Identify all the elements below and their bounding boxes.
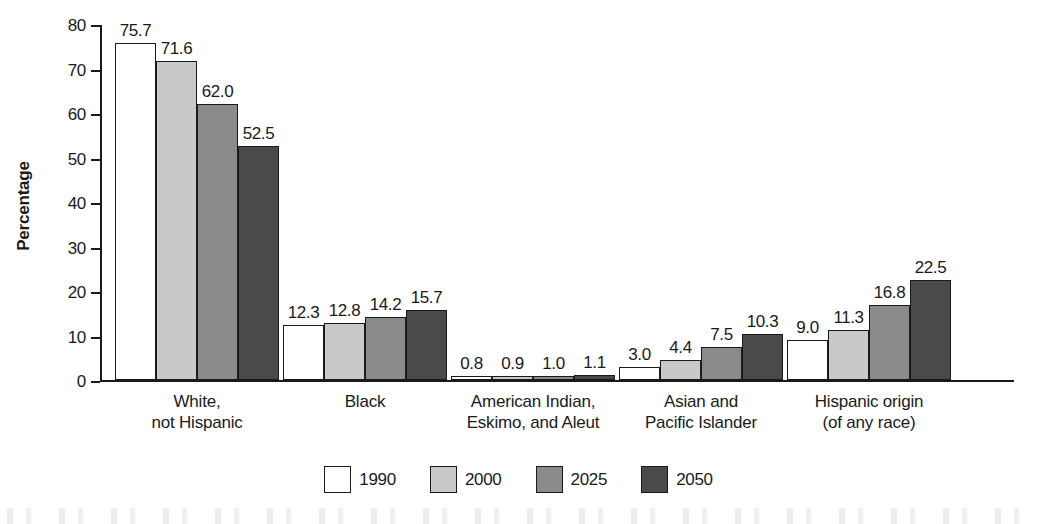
y-tick-mark	[91, 292, 100, 294]
bar-value-label: 62.0	[187, 83, 249, 100]
bar	[115, 43, 156, 380]
y-tick-label: 60	[42, 106, 86, 123]
bar	[156, 61, 197, 380]
bar	[197, 104, 238, 380]
bar	[324, 323, 365, 380]
y-tick-label: 70	[42, 62, 86, 79]
bar	[701, 347, 742, 380]
y-tick-mark	[91, 114, 100, 116]
bar-group: 0.80.91.01.1	[451, 24, 615, 380]
bar	[574, 375, 615, 380]
bar	[451, 376, 492, 380]
bar-group: 12.312.814.215.7	[283, 24, 447, 380]
bar	[283, 325, 324, 380]
bar-group: 3.04.47.510.3	[619, 24, 783, 380]
bar	[828, 330, 869, 380]
y-tick-label: 10	[42, 329, 86, 346]
bar	[660, 360, 701, 380]
bar-value-label: 22.5	[900, 259, 962, 276]
chart-legend: 1990200020252050	[0, 466, 1037, 493]
y-tick-label: 20	[42, 284, 86, 301]
bar	[619, 367, 660, 380]
bar	[238, 146, 279, 380]
y-tick-mark	[91, 203, 100, 205]
legend-label: 2000	[465, 470, 502, 490]
bar	[742, 334, 783, 380]
y-tick-mark	[91, 381, 100, 383]
legend-swatch	[324, 466, 351, 493]
category-label-line: Hispanic origin	[749, 391, 989, 412]
bar	[492, 376, 533, 380]
legend-swatch	[430, 466, 457, 493]
y-axis-title: Percentage	[14, 136, 34, 276]
legend-item[interactable]: 1990	[324, 466, 396, 493]
y-tick-mark	[91, 70, 100, 72]
y-tick-mark	[91, 248, 100, 250]
legend-swatch	[536, 466, 563, 493]
legend-item[interactable]: 2000	[430, 466, 502, 493]
bar	[910, 280, 951, 380]
bar-value-label: 71.6	[146, 40, 208, 57]
legend-item[interactable]: 2025	[536, 466, 608, 493]
legend-item[interactable]: 2050	[641, 466, 713, 493]
legend-label: 1990	[359, 470, 396, 490]
x-axis-line	[100, 380, 1014, 382]
y-tick-mark	[91, 337, 100, 339]
bar-value-label: 75.7	[105, 22, 167, 39]
bar	[869, 305, 910, 380]
bar	[365, 317, 406, 380]
y-tick-label: 40	[42, 195, 86, 212]
y-tick-label: 50	[42, 151, 86, 168]
bar	[533, 376, 574, 380]
bar-value-label: 15.7	[396, 289, 458, 306]
x-axis-category-label: Hispanic origin(of any race)	[749, 391, 989, 433]
bar-chart-figure: Percentage 01020304050607080 75.771.662.…	[0, 0, 1037, 524]
scan-bleed-artifact	[0, 508, 1037, 524]
bar-group: 75.771.662.052.5	[115, 24, 279, 380]
bar	[787, 340, 828, 380]
legend-swatch	[641, 466, 668, 493]
category-label-line: not Hispanic	[77, 412, 317, 433]
y-tick-label: 30	[42, 240, 86, 257]
legend-label: 2025	[571, 470, 608, 490]
plot-area: 01020304050607080 75.771.662.052.512.312…	[100, 25, 1020, 381]
bar-group: 9.011.316.822.5	[787, 24, 951, 380]
y-axis-line	[100, 25, 102, 382]
y-tick-label: 0	[42, 373, 86, 390]
bar-value-label: 52.5	[228, 125, 290, 142]
y-tick-mark	[91, 25, 100, 27]
legend-label: 2050	[676, 470, 713, 490]
y-tick-label: 80	[42, 17, 86, 34]
y-tick-mark	[91, 159, 100, 161]
category-label-line: (of any race)	[749, 412, 989, 433]
